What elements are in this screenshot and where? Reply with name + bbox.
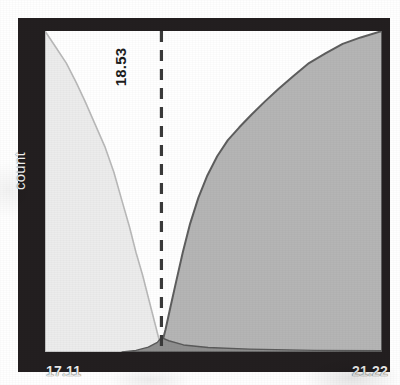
x-axis-tick-min: 17.11	[46, 363, 81, 379]
plot-svg	[45, 31, 382, 352]
y-axis-label: count	[9, 131, 31, 211]
threshold-value-label: 18.53	[112, 39, 130, 95]
frame-band-right	[382, 18, 390, 372]
x-axis-tick-max: 21.22	[352, 363, 388, 379]
figure-container: count 18.53 17.11 21.22	[0, 0, 400, 385]
frame-band-top	[18, 18, 390, 31]
plot-area	[45, 31, 382, 352]
